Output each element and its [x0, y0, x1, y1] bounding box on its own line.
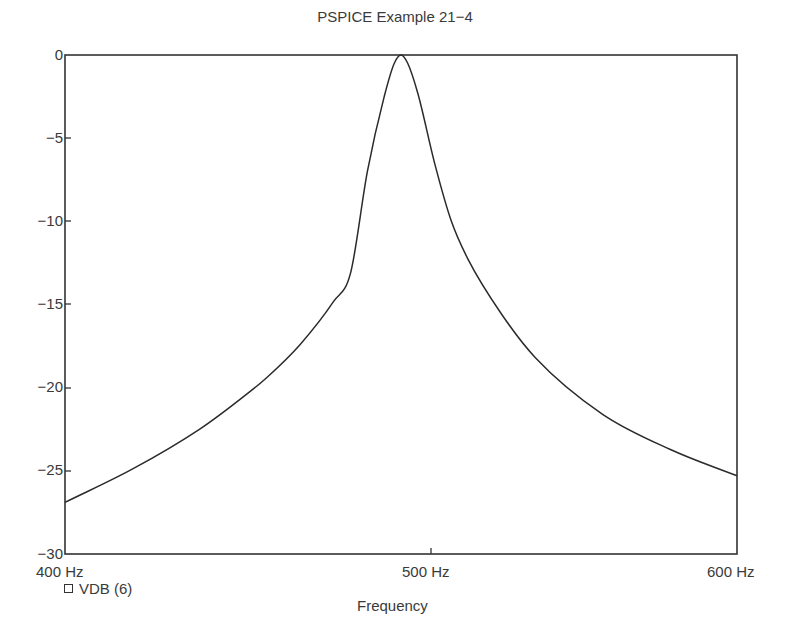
y-ticks [65, 138, 71, 471]
vdb-curve [65, 55, 737, 502]
plot-frame [65, 55, 737, 554]
plot-area [0, 0, 790, 635]
